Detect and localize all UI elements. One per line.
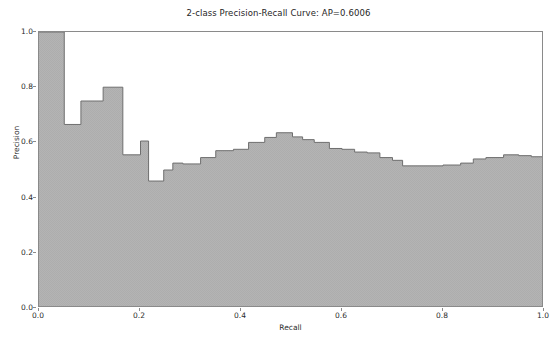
y-tick-mark [33,141,36,142]
x-tick-mark [341,308,342,311]
x-tick-label: 0.0 [18,311,58,320]
y-tick-label: 0.2 [5,247,33,256]
x-tick-mark [543,308,544,311]
y-tick-label: 0.4 [5,192,33,201]
x-axis-label: Recall [38,323,543,332]
x-tick-label: 0.6 [321,311,361,320]
y-tick-mark [33,31,36,32]
y-tick-label: 1.0 [5,27,33,36]
precision-recall-curve [39,32,543,307]
x-tick-mark [38,308,39,311]
x-tick-label: 1.0 [523,311,557,320]
y-tick-mark [33,252,36,253]
x-tick-label: 0.2 [119,311,159,320]
plot-area [38,31,543,307]
precision-recall-figure: 2-class Precision-Recall Curve: AP=0.600… [0,0,557,342]
x-tick-mark [442,308,443,311]
chart-title: 2-class Precision-Recall Curve: AP=0.600… [0,8,557,18]
curve-fill-area [39,32,543,307]
x-tick-label: 0.4 [220,311,260,320]
y-tick-mark [33,86,36,87]
y-tick-mark [33,307,36,308]
y-axis-label: Precision [12,103,21,183]
y-tick-label: 0.8 [5,82,33,91]
x-tick-mark [240,308,241,311]
x-tick-label: 0.8 [422,311,462,320]
y-tick-mark [33,197,36,198]
x-tick-mark [139,308,140,311]
